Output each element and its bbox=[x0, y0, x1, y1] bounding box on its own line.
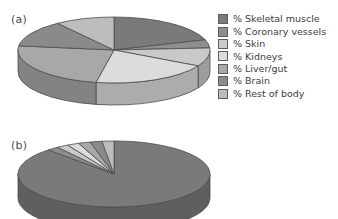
swatch-skeletal-muscle bbox=[218, 14, 228, 24]
pie-b-canvas bbox=[16, 134, 212, 219]
pie-chart-a bbox=[16, 10, 212, 110]
chart-legend: % Skeletal muscle% Coronary vessels% Ski… bbox=[218, 13, 336, 100]
legend-item-label: % Brain bbox=[233, 76, 270, 86]
legend-item-label: % Skeletal muscle bbox=[233, 14, 320, 24]
swatch-skin bbox=[218, 39, 228, 49]
legend-item: % Brain bbox=[218, 75, 336, 87]
legend-item: % Skeletal muscle bbox=[218, 13, 336, 25]
legend-item: % Skin bbox=[218, 38, 336, 50]
legend-item: % Liver/gut bbox=[218, 63, 336, 75]
legend-item-label: % Liver/gut bbox=[233, 64, 287, 74]
pie-chart-b bbox=[16, 134, 212, 219]
legend-item: % Rest of body bbox=[218, 87, 336, 99]
legend-item: % Coronary vessels bbox=[218, 25, 336, 37]
legend-item-label: % Skin bbox=[233, 39, 265, 49]
swatch-brain bbox=[218, 76, 228, 86]
swatch-kidneys bbox=[218, 51, 228, 61]
legend-item-label: % Coronary vessels bbox=[233, 27, 326, 37]
legend-item-label: % Kidneys bbox=[233, 52, 282, 62]
swatch-coronary-vessels bbox=[218, 27, 228, 37]
pie-a-canvas bbox=[16, 10, 212, 110]
legend-item: % Kidneys bbox=[218, 50, 336, 62]
swatch-rest-of-body bbox=[218, 89, 228, 99]
figure-two-pie-charts: (a) (b) % Skeletal muscle% Coronary vess… bbox=[0, 0, 338, 219]
swatch-liver-gut bbox=[218, 64, 228, 74]
legend-item-label: % Rest of body bbox=[233, 89, 304, 99]
